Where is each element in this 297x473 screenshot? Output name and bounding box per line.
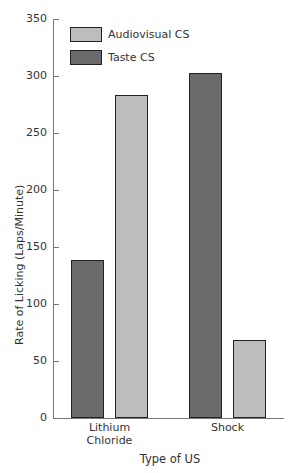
x-category-label: LithiumChloride — [66, 421, 153, 447]
legend-label: Taste CS — [108, 51, 155, 64]
y-tick — [53, 19, 59, 20]
bar-audiovisual-cs — [233, 340, 266, 418]
legend-label: Audiovisual CS — [108, 28, 190, 41]
bar-taste-cs — [189, 73, 222, 418]
y-tick-label: 50 — [17, 354, 47, 367]
legend-swatch — [70, 50, 102, 65]
y-tick — [53, 190, 59, 191]
y-tick-label: 350 — [17, 12, 47, 25]
x-axis-label: Type of US — [120, 452, 220, 466]
y-tick-label: 0 — [17, 411, 47, 424]
y-axis — [53, 19, 54, 419]
bar-audiovisual-cs — [115, 95, 148, 418]
y-tick-label: 250 — [17, 126, 47, 139]
y-tick — [53, 361, 59, 362]
legend-swatch — [70, 27, 102, 42]
y-axis-label: Rate of Licking (Laps/Minute) — [13, 185, 26, 345]
y-tick — [53, 247, 59, 248]
x-axis — [53, 418, 284, 419]
x-category-label: Shock — [184, 421, 271, 434]
y-tick — [53, 418, 59, 419]
y-tick — [53, 304, 59, 305]
bar-chart: 050100150200250300350LithiumChlorideShoc… — [0, 0, 297, 473]
y-tick-label: 300 — [17, 69, 47, 82]
y-tick — [53, 133, 59, 134]
y-tick — [53, 76, 59, 77]
bar-taste-cs — [71, 260, 104, 418]
